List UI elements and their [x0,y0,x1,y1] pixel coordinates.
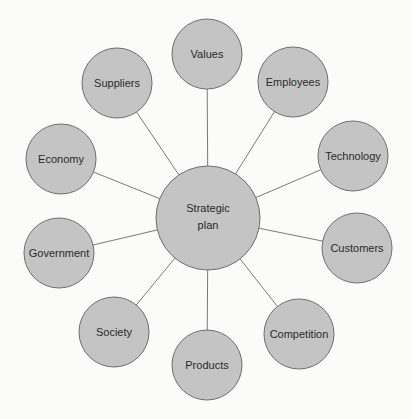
edge-society [136,258,175,305]
node-values: Values [172,19,242,89]
node-label-customers: Customers [330,242,384,254]
center-label-line-2: plan [198,219,219,231]
node-competition: Competition [264,299,334,369]
node-label-values: Values [191,48,224,60]
node-economy: Economy [26,124,96,194]
node-suppliers: Suppliers [82,48,152,118]
strategic-plan-diagram: ValuesEmployeesTechnologyCustomersCompet… [0,0,411,419]
edge-government [93,230,157,245]
node-label-employees: Employees [266,76,321,88]
node-strategic-plan: Strategicplan [156,166,260,270]
edge-competition [240,259,277,307]
node-label-government: Government [29,247,90,259]
node-technology: Technology [318,121,388,191]
edge-suppliers [137,112,179,175]
node-label-competition: Competition [270,328,329,340]
node-label-products: Products [185,359,229,371]
edge-technology [256,170,321,198]
center-circle [156,166,260,270]
node-customers: Customers [322,213,392,283]
node-label-technology: Technology [325,150,381,162]
edge-customers [259,228,323,241]
node-label-economy: Economy [38,153,84,165]
center-label-line-1: Strategic [186,202,230,214]
node-products: Products [172,330,242,400]
node-label-society: Society [96,326,133,338]
nodes: ValuesEmployeesTechnologyCustomersCompet… [24,19,392,400]
node-society: Society [79,297,149,367]
edge-economy [93,172,159,199]
edge-employees [236,112,275,174]
node-label-suppliers: Suppliers [94,77,140,89]
node-employees: Employees [258,47,328,117]
node-government: Government [24,218,94,288]
